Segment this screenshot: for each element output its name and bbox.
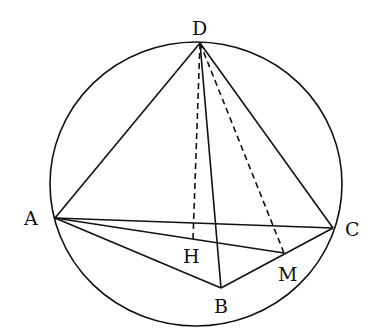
- circumscribed-circle: [50, 42, 342, 326]
- diagram-canvas: D A C B H M: [0, 0, 379, 335]
- label-H: H: [183, 245, 200, 267]
- dashed-segment-DM: [200, 43, 284, 253]
- label-M: M: [278, 263, 297, 285]
- segment-BC: [221, 228, 333, 288]
- geometry-diagram: D A C B H M: [0, 0, 379, 335]
- dashed-segment-DH: [193, 43, 200, 239]
- segment-DC: [200, 43, 333, 228]
- label-C: C: [345, 218, 360, 240]
- segment-DA: [55, 43, 200, 218]
- label-A: A: [23, 207, 38, 229]
- segment-AM: [55, 218, 284, 253]
- label-B: B: [214, 295, 228, 317]
- segment-DB: [200, 43, 221, 288]
- label-D: D: [192, 17, 207, 39]
